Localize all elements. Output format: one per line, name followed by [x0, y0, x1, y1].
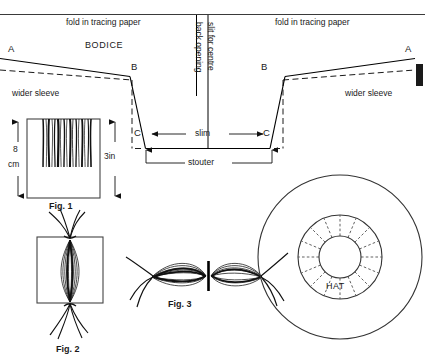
fig3-drawing — [126, 253, 288, 307]
fold-right-label: fold in tracing paper — [275, 18, 350, 27]
fig1-caption: Fig. 1 — [49, 202, 73, 211]
stouter-label: stouter — [188, 158, 214, 167]
point-c-right-label: C — [263, 128, 270, 138]
fig1-dim-left-value: 8 — [13, 145, 18, 154]
bodice-title-label: BODICE — [85, 41, 123, 50]
slit-for-centre-label: slit for centre — [207, 22, 216, 71]
point-a-left-label: A — [8, 44, 14, 54]
sleeve-left-label: wider sleeve — [12, 89, 59, 98]
sleeve-right-label: wider sleeve — [345, 89, 392, 98]
fig1-dim-left-unit: cm — [8, 160, 19, 169]
hat-label: HAT — [326, 282, 345, 291]
fold-left-label: fold in tracing paper — [66, 18, 141, 27]
point-c-left-label: C — [134, 128, 141, 138]
slim-label: slim — [195, 129, 210, 138]
right-edge-marker — [416, 64, 423, 86]
fig1-drawing — [18, 119, 115, 198]
back-opening-label: back opening — [195, 22, 204, 73]
fig3-caption: Fig. 3 — [168, 300, 192, 309]
fig2-drawing — [37, 209, 103, 339]
diagram-canvas: fold in tracing paper fold in tracing pa… — [0, 0, 425, 363]
point-b-left-label: B — [131, 62, 137, 72]
point-b-right-label: B — [261, 62, 267, 72]
fig1-dim-right-value: 3in — [104, 152, 115, 161]
fig2-caption: Fig. 2 — [56, 345, 80, 354]
point-a-right-label: A — [405, 44, 411, 54]
